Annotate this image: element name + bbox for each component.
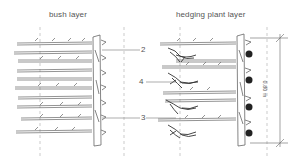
bush-branches	[14, 38, 92, 133]
dimension-label: 0.80 m	[262, 81, 268, 98]
callout-2: 2	[141, 45, 145, 54]
bush-stake	[93, 35, 106, 146]
callout-3: 3	[141, 113, 145, 122]
hedging-roots	[166, 48, 198, 138]
dashed-guides	[40, 27, 267, 158]
dimension-line	[250, 34, 288, 147]
callout-4: 4	[139, 77, 143, 86]
hedging-branches	[158, 38, 236, 121]
diagram-drawing	[0, 0, 299, 168]
